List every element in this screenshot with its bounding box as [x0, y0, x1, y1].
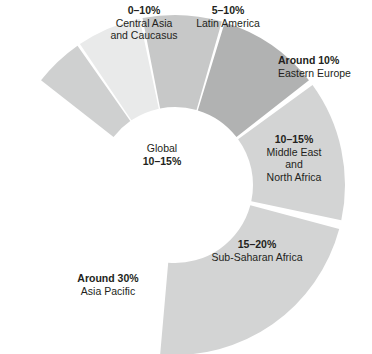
slice-value-eastern-europe: Around 10% [278, 54, 370, 67]
slice-name-sub-saharan-africa: Sub-Saharan Africa [190, 251, 324, 264]
slice-label-sub-saharan-africa: 15–20% Sub-Saharan Africa [190, 238, 324, 263]
slice-name-mena-line1: Middle East [252, 146, 336, 159]
slice-label-eastern-europe: Around 10% Eastern Europe [278, 54, 370, 79]
donut-chart-figure: 0–10% Central Asia and Caucasus 5–10% La… [0, 0, 372, 354]
slice-value-asia-pacific: Around 30% [56, 272, 160, 285]
slice-name-latin-america: Latin America [182, 17, 274, 30]
slice-label-mena: 10–15% Middle East and North Africa [252, 133, 336, 183]
slice-label-asia-pacific: Around 30% Asia Pacific [56, 272, 160, 297]
slice-name-eastern-europe: Eastern Europe [278, 67, 370, 80]
slice-label-latin-america: 5–10% Latin America [182, 4, 274, 29]
donut-slice-asia-pacific[interactable] [160, 205, 339, 354]
slice-name-mena-line2: and [252, 158, 336, 171]
slice-value-mena: 10–15% [252, 133, 336, 146]
slice-value-sub-saharan-africa: 15–20% [190, 238, 324, 251]
center-label-value: 10–15% [116, 155, 208, 168]
slice-value-latin-america: 5–10% [182, 4, 274, 17]
slice-name-central-asia-line2: and Caucasus [96, 29, 192, 42]
slice-name-mena-line3: North Africa [252, 171, 336, 184]
slice-label-central-asia: 0–10% Central Asia and Caucasus [96, 4, 192, 42]
center-label-name: Global [116, 142, 208, 155]
slice-value-central-asia: 0–10% [96, 4, 192, 17]
slice-name-central-asia-line1: Central Asia [96, 17, 192, 30]
center-label-global: Global 10–15% [116, 142, 208, 167]
slice-name-asia-pacific: Asia Pacific [56, 285, 160, 298]
